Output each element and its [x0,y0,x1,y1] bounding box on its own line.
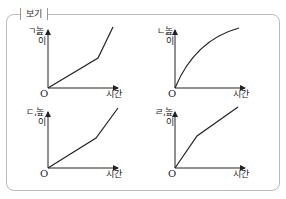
svg-text:시간: 시간 [233,89,249,99]
svg-text:높: 높 [165,107,173,117]
svg-text:시간: 시간 [233,169,249,179]
graph-a: ㄱ, 높 이 O 시간 [28,26,122,99]
svg-text:이: 이 [38,36,46,46]
svg-text:O: O [40,168,48,179]
svg-text:O: O [40,88,48,99]
graph-c: ㄷ, 높 이 O 시간 [26,107,122,179]
svg-text:시간: 시간 [106,89,122,99]
svg-text:이: 이 [166,117,174,127]
svg-text:시간: 시간 [106,169,122,179]
svg-text:높: 높 [36,26,44,36]
graphs-figure: ㄱ, 높 이 O 시간 ㄴ, 높 이 O 시간 ㄷ, 높 이 O 시간 ㄹ, 높… [0,0,286,199]
svg-text:이: 이 [38,117,46,127]
svg-text:O: O [168,168,176,179]
graph-b: ㄴ, 높 이 O 시간 [157,26,249,99]
graph-d: ㄹ, 높 이 O 시간 [155,107,249,179]
svg-text:높: 높 [36,107,44,117]
svg-text:O: O [168,88,176,99]
svg-text:이: 이 [166,36,174,46]
svg-text:높: 높 [165,26,173,36]
